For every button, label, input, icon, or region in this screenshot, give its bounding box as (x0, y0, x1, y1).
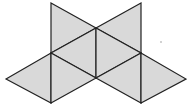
faces-group (6, 3, 186, 103)
net-canvas (0, 0, 187, 107)
far-right-face (141, 53, 186, 103)
far-left-face (6, 53, 51, 103)
octahedron-net-diagram (0, 0, 187, 107)
scan-artifact-dot (160, 41, 162, 43)
